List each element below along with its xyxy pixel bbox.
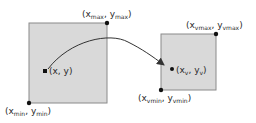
world-window-rect — [29, 23, 107, 103]
world-min-corner-dot — [27, 101, 31, 105]
viewport-max-label: (xvmax, yvmax) — [186, 20, 243, 31]
world-point-label: (x, y) — [49, 66, 72, 76]
world-max-corner-dot — [105, 21, 109, 25]
viewport-max-corner-dot — [214, 32, 218, 36]
viewport-point-marker — [170, 67, 174, 71]
world-max-label: (xmax, ymax) — [82, 9, 132, 20]
viewport-min-label: (xvmin, yvmin) — [138, 93, 191, 104]
viewport-rect — [161, 34, 216, 90]
window-viewport-diagram: (xmax, ymax) (xmin, ymin) (x, y) (xvmax,… — [0, 0, 256, 123]
world-min-label: (xmin, ymin) — [5, 106, 51, 117]
viewport-min-corner-dot — [159, 88, 163, 92]
world-point-marker — [43, 69, 47, 73]
